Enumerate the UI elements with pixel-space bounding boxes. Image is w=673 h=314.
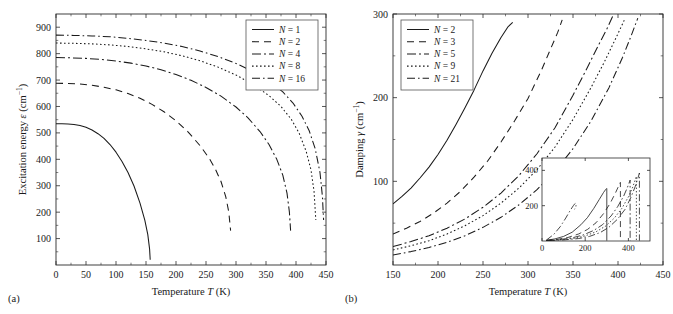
legend-label-5: N = 16 <box>278 74 305 84</box>
x-tick-label: 300 <box>521 269 536 280</box>
y-tick-label: 100 <box>373 176 388 187</box>
x-tick-label: 150 <box>386 269 401 280</box>
panel-label: (a) <box>8 293 20 305</box>
y-tick-label: 600 <box>36 101 51 112</box>
x-tick-label: 450 <box>319 269 334 280</box>
x-tick-label: 200 <box>431 269 446 280</box>
x-axis-label: Temperature T (K) <box>152 286 231 298</box>
chart-panel-b: 150200250300350400450100200300Temperatur… <box>337 0 673 314</box>
y-axis-label: Damping γ (cm−1) <box>352 101 367 178</box>
inset-y-tick-label: 400 <box>525 165 538 175</box>
y-tick-label: 200 <box>373 92 388 103</box>
legend-label-3: N = 4 <box>278 49 300 59</box>
legend-label-4: N = 8 <box>278 61 300 71</box>
data-curve-1 <box>56 124 150 260</box>
y-tick-label: 700 <box>36 75 51 86</box>
legend-label-2: N = 2 <box>278 37 300 47</box>
y-tick-label: 500 <box>36 127 51 138</box>
panel-label: (b) <box>345 293 358 305</box>
x-tick-label: 100 <box>109 269 124 280</box>
data-curve-2 <box>56 83 231 230</box>
y-axis-label: Excitation energy ε (cm−1) <box>15 83 30 195</box>
x-tick-label: 250 <box>199 269 214 280</box>
legend-label-4: N = 9 <box>433 61 455 71</box>
panel-a-svg: 0501001502002503003504004501002003004005… <box>0 0 336 314</box>
y-tick-label: 800 <box>36 48 51 59</box>
y-tick-label: 300 <box>36 180 51 191</box>
x-tick-label: 400 <box>289 269 304 280</box>
x-tick-label: 200 <box>169 269 184 280</box>
x-tick-label: 0 <box>54 269 59 280</box>
legend-panel-a: N = 1N = 2N = 4N = 8N = 16 <box>246 20 318 90</box>
legend-panel-b: N = 2N = 3N = 5N = 9N = 21 <box>401 20 473 90</box>
legend-label-1: N = 1 <box>278 25 300 35</box>
inset-y-tick-label: 200 <box>525 201 538 211</box>
y-tick-label: 100 <box>36 233 51 244</box>
chart-panel-a: 0501001502002503003504004501002003004005… <box>0 0 336 314</box>
legend-label-3: N = 5 <box>433 49 455 59</box>
x-tick-label: 300 <box>229 269 244 280</box>
y-tick-label: 200 <box>36 207 51 218</box>
panel-b-svg: 150200250300350400450100200300Temperatur… <box>337 0 673 314</box>
x-tick-label: 250 <box>476 269 491 280</box>
x-tick-label: 450 <box>656 269 671 280</box>
x-tick-label: 50 <box>81 269 91 280</box>
inset-x-tick-label: 0 <box>540 243 544 253</box>
inset-x-tick-label: 400 <box>622 243 635 253</box>
legend-label-1: N = 2 <box>433 25 455 35</box>
y-tick-label: 300 <box>373 9 388 20</box>
x-axis-label: Temperature T (K) <box>489 286 568 298</box>
inset-chart: 0200400200400 <box>525 158 650 253</box>
y-tick-label: 900 <box>36 22 51 33</box>
legend-label-2: N = 3 <box>433 37 455 47</box>
x-tick-label: 350 <box>259 269 274 280</box>
y-tick-label: 400 <box>36 154 51 165</box>
x-tick-label: 150 <box>139 269 154 280</box>
x-tick-label: 400 <box>611 269 626 280</box>
x-tick-label: 350 <box>566 269 581 280</box>
legend-label-5: N = 21 <box>433 74 460 84</box>
figure-container: 0501001502002503003504004501002003004005… <box>0 0 673 314</box>
inset-x-tick-label: 200 <box>579 243 592 253</box>
